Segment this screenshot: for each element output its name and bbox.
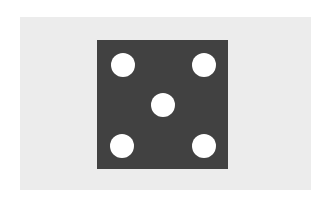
pip-top-left-icon <box>111 53 135 77</box>
pip-bottom-left-icon <box>110 134 134 158</box>
pip-bottom-right-icon <box>192 134 216 158</box>
die-face-five-icon <box>97 40 228 169</box>
pip-center-icon <box>151 93 175 117</box>
image-stage <box>0 0 329 199</box>
pip-top-right-icon <box>192 53 216 77</box>
